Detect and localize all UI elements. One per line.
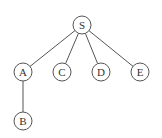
node-label: S (79, 19, 85, 31)
edge-s-c (66, 33, 79, 63)
node-c: C (53, 63, 71, 81)
node-a: A (14, 63, 32, 81)
tree-diagram: SACDEB (0, 0, 162, 138)
node-e: E (131, 63, 149, 81)
edge-s-d (85, 33, 97, 63)
node-label: E (137, 66, 144, 78)
node-label: D (97, 66, 105, 78)
nodes-group: SACDEB (14, 16, 149, 130)
node-label: B (19, 115, 26, 127)
node-label: C (58, 66, 65, 78)
node-b: B (14, 112, 32, 130)
edge-s-e (89, 31, 133, 67)
edge-s-a (30, 31, 75, 67)
node-label: A (19, 66, 27, 78)
node-d: D (92, 63, 110, 81)
node-s: S (73, 16, 91, 34)
edges-group (23, 31, 133, 112)
